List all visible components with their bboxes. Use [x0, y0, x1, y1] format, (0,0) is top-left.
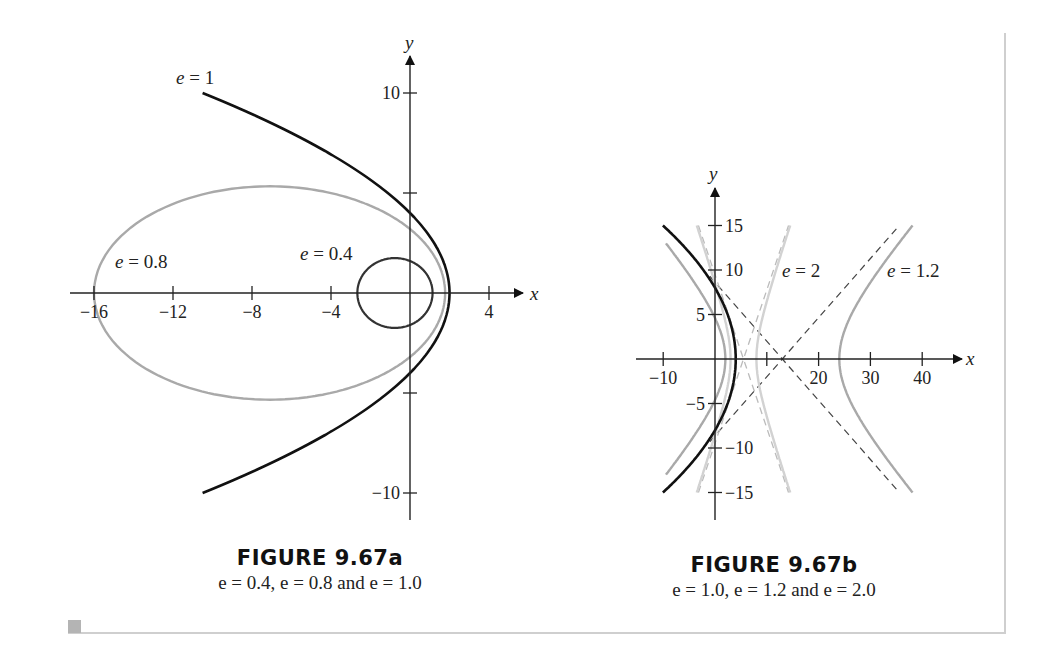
- asymptote-e-1.2: [710, 226, 899, 442]
- x-tick-label: −16: [80, 302, 108, 322]
- y-tick-label: −10: [372, 483, 400, 503]
- curve-label: e = 1: [176, 67, 214, 88]
- x-tick-label: 20: [810, 368, 828, 388]
- figure-b-plot: xy−1020304015105−5−10−15e = 2e = 1.2: [636, 163, 975, 520]
- y-tick-label: 5: [696, 305, 705, 325]
- figure-a-subtitle: e = 0.4, e = 0.8 and e = 1.0: [140, 572, 500, 594]
- y-axis-label: y: [403, 32, 414, 53]
- figure-a-caption: FIGURE 9.67a e = 0.4, e = 0.8 and e = 1.…: [140, 546, 500, 594]
- y-tick-label: −15: [725, 483, 753, 503]
- y-tick-label: −10: [725, 438, 753, 458]
- figure-b-caption: FIGURE 9.67b e = 1.0, e = 1.2 and e = 2.…: [594, 553, 954, 601]
- y-axis-label: y: [707, 163, 718, 184]
- curve-label: e = 0.8: [115, 251, 167, 272]
- figure-a-plot: xy−16−12−8−4410−10e = 1e = 0.8e = 0.4: [70, 32, 539, 520]
- x-tick-label: 30: [861, 368, 879, 388]
- x-tick-label: 4: [485, 302, 494, 322]
- x-tick-label: −10: [649, 368, 677, 388]
- curve-label: e = 2: [782, 260, 820, 281]
- x-tick-label: −4: [321, 302, 340, 322]
- x-tick-label: −8: [242, 302, 261, 322]
- y-tick-label: 10: [725, 260, 743, 280]
- figure-b-title: FIGURE 9.67b: [594, 553, 954, 577]
- y-tick-label: 10: [382, 83, 400, 103]
- x-tick-label: −12: [159, 302, 187, 322]
- curve-label: e = 0.4: [300, 243, 353, 264]
- x-tick-label: 40: [913, 368, 931, 388]
- x-axis-label: x: [965, 348, 975, 369]
- curve-label: e = 1.2: [887, 260, 939, 281]
- y-tick-label: −5: [686, 394, 705, 414]
- figure-b-subtitle: e = 1.0, e = 1.2 and e = 2.0: [594, 579, 954, 601]
- figure-a-title: FIGURE 9.67a: [140, 546, 500, 570]
- x-axis-label: x: [529, 283, 539, 304]
- y-tick-label: 15: [725, 216, 743, 236]
